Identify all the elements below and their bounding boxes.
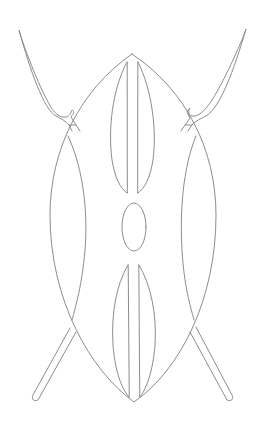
shield-right-panel (181, 136, 196, 320)
shield-bottom-lens (113, 265, 156, 397)
shield-top-lens (111, 62, 155, 193)
shield-and-spears-drawing (0, 0, 260, 429)
shield-outline (50, 54, 216, 402)
right-spear-icon (181, 29, 246, 401)
illustration-canvas (0, 0, 260, 429)
shield-center-oval (122, 203, 146, 251)
shield-left-panel (68, 136, 86, 320)
